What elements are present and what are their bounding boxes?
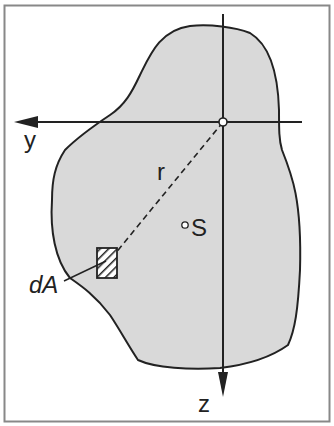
radius-label: r xyxy=(157,158,165,185)
area-element-dA xyxy=(97,248,117,278)
y-axis-label: y xyxy=(24,126,36,153)
z-axis-label: z xyxy=(198,390,210,417)
centroid-label: S xyxy=(191,214,207,241)
origin-point xyxy=(219,118,227,126)
dA-label: dA xyxy=(29,271,58,298)
centroid-point xyxy=(182,222,188,228)
cross-section-diagram: y z r S dA xyxy=(0,0,334,426)
